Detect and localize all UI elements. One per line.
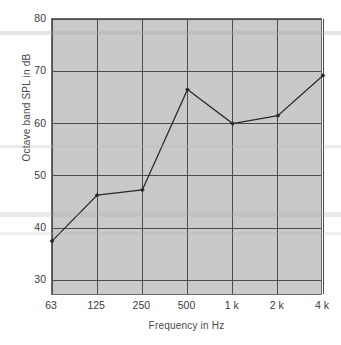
series-polyline <box>52 75 323 241</box>
data-point-marker <box>140 188 145 193</box>
x-axis-tick-label: 250 <box>118 299 164 311</box>
x-axis-tick-label: 2 k <box>254 299 300 311</box>
y-axis-tick-label: 40 <box>6 221 46 233</box>
y-axis-tick-label: 70 <box>6 64 46 76</box>
series-markers <box>50 73 326 243</box>
x-axis-tick-label: 4 k <box>299 299 341 311</box>
x-axis-tick-label: 63 <box>28 299 74 311</box>
y-axis-tick-label: 60 <box>6 117 46 129</box>
x-axis-tick-label: 1 k <box>209 299 255 311</box>
x-axis-title: Frequency in Hz <box>51 320 322 331</box>
chart-figure: Octave band SPL in dB 304050607080 63125… <box>0 0 341 345</box>
plot-area <box>51 18 322 295</box>
y-axis-tick-label: 30 <box>6 273 46 285</box>
y-axis-title: Octave band SPL in dB <box>21 28 32 188</box>
data-series-line <box>52 19 323 296</box>
y-axis-tick-label: 50 <box>6 169 46 181</box>
x-axis-tick-label: 125 <box>73 299 119 311</box>
x-axis-tick-label: 500 <box>164 299 210 311</box>
y-axis-tick-label: 80 <box>6 12 46 24</box>
